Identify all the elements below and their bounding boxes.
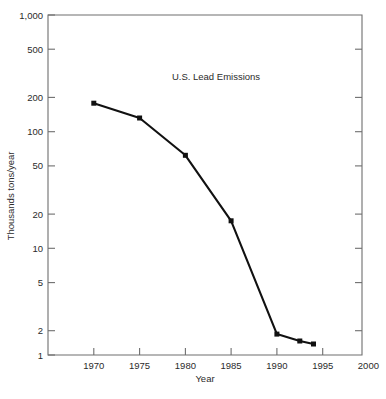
x-tick-label-1970: 1970 (83, 360, 104, 371)
data-point-1980 (183, 153, 188, 158)
y-tick-label-200: 200 (27, 92, 43, 103)
y-tick-label-10: 10 (32, 243, 43, 254)
x-tick-label-1995: 1995 (312, 360, 333, 371)
y-tick-label-100: 100 (27, 126, 43, 137)
x-axis-title: Year (195, 373, 214, 384)
data-point-1975 (137, 116, 142, 121)
data-point-1992 (297, 339, 302, 344)
x-tick-label-1975: 1975 (129, 360, 150, 371)
x-tick-label-1985: 1985 (221, 360, 242, 371)
y-tick-label-1000: 1,000 (19, 10, 43, 21)
right-axis-ticks (355, 49, 362, 331)
x-axis-tick-labels: 1970 1975 1980 1985 1990 1995 2000 (83, 360, 379, 371)
data-point-1994 (311, 342, 316, 347)
y-tick-label-2: 2 (38, 325, 43, 336)
y-tick-label-1: 1 (38, 350, 43, 361)
y-axis-tick-labels: 1,000 500 200 100 50 20 10 5 2 1 (19, 10, 43, 361)
y-tick-label-500: 500 (27, 44, 43, 55)
series-line-path (94, 103, 314, 344)
chart-title: U.S. Lead Emissions (172, 71, 260, 82)
y-axis-title: Thousands tons/year (5, 152, 16, 241)
x-axis-ticks (94, 348, 323, 355)
chart-figure: 1,000 500 200 100 50 20 10 5 2 1 1970 19… (0, 0, 386, 399)
lead-emissions-line-chart: 1,000 500 200 100 50 20 10 5 2 1 1970 19… (0, 0, 386, 399)
data-point-1970 (91, 101, 96, 106)
x-tick-label-1990: 1990 (266, 360, 287, 371)
y-tick-label-20: 20 (32, 209, 43, 220)
x-tick-label-2000: 2000 (358, 360, 379, 371)
data-series-lead-emissions (91, 101, 316, 347)
y-tick-label-50: 50 (32, 160, 43, 171)
y-tick-label-5: 5 (38, 277, 43, 288)
data-point-1990 (274, 332, 279, 337)
y-axis-ticks (48, 15, 55, 355)
x-tick-label-1980: 1980 (175, 360, 196, 371)
data-point-1985 (229, 218, 234, 223)
